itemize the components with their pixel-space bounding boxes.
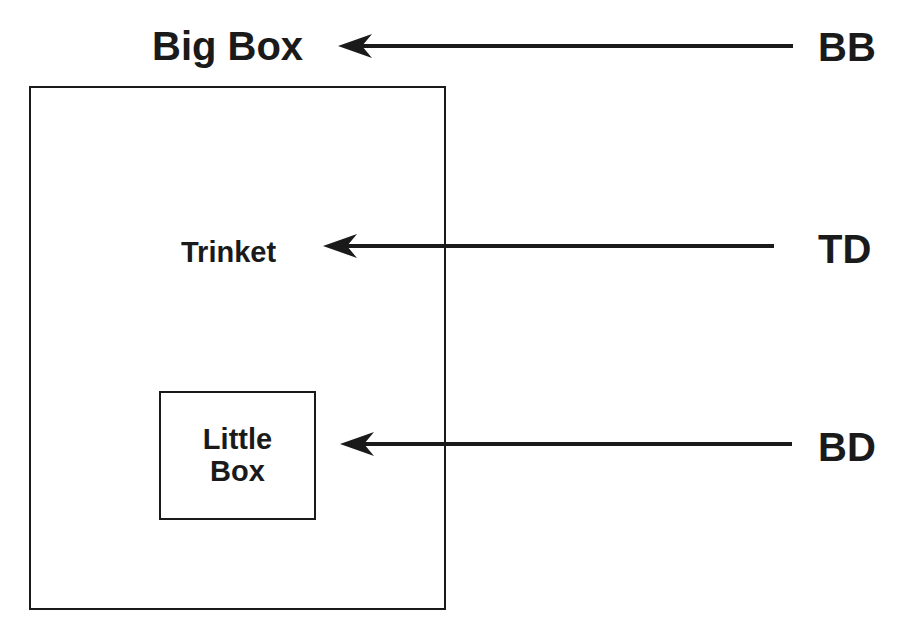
- arrow-bd-icon: [340, 432, 792, 456]
- arrow-bb-icon: [338, 34, 793, 58]
- arrow-td-icon: [323, 234, 774, 258]
- pointer-arrows: [0, 0, 923, 626]
